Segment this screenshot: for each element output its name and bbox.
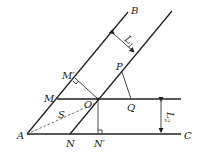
label-s: S	[58, 109, 65, 120]
label-p: P	[115, 61, 123, 72]
label-b: B	[130, 5, 138, 16]
label-n-prime: N′	[93, 138, 106, 149]
svg-text:L2: L2	[164, 111, 176, 123]
label-l1: L1	[121, 32, 137, 49]
label-a: A	[16, 130, 24, 141]
line-ab	[27, 12, 128, 134]
right-angle-mark-m-prime	[73, 81, 79, 84]
segment-pq	[122, 72, 131, 99]
label-m-prime: M′	[61, 70, 75, 81]
label-l2: L2	[164, 111, 176, 123]
label-c: C	[184, 130, 192, 141]
label-q: Q	[127, 102, 135, 113]
geometry-diagram: B A C M M′ O P Q N N′ S L1 L2	[0, 0, 199, 155]
line-parallel-no	[70, 11, 172, 134]
label-m: M	[43, 93, 55, 104]
svg-text:L1: L1	[121, 32, 137, 49]
point-o-dot	[96, 97, 99, 100]
label-n: N	[65, 138, 76, 149]
label-o: O	[84, 99, 92, 110]
